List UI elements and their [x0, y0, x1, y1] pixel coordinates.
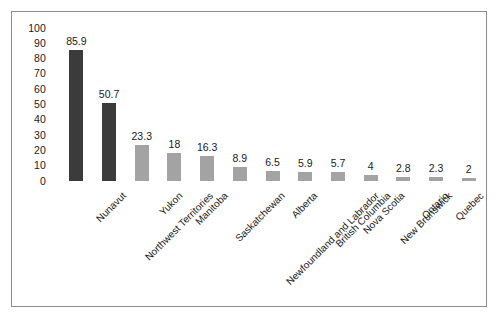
y-axis-tick-label: 50 — [16, 99, 46, 109]
bar[interactable] — [298, 172, 312, 181]
bar[interactable] — [331, 172, 345, 181]
bar[interactable] — [135, 145, 149, 181]
y-axis-tick-label: 40 — [16, 114, 46, 124]
bar[interactable] — [167, 153, 181, 181]
bar-value-label: 85.9 — [54, 36, 98, 47]
bar[interactable] — [396, 177, 410, 181]
bar[interactable] — [462, 178, 476, 181]
y-axis-tick-label: 80 — [16, 53, 46, 63]
x-axis-category-label: Quebec — [453, 190, 486, 223]
bar-value-label: 16.3 — [185, 142, 229, 153]
y-axis-tick-label: 10 — [16, 160, 46, 170]
y-axis-tick-label: 20 — [16, 145, 46, 155]
y-axis-tick-label: 70 — [16, 68, 46, 78]
bar[interactable] — [102, 103, 116, 181]
y-axis-tick-label: 0 — [16, 176, 46, 186]
bar-value-label: 2 — [447, 164, 491, 175]
y-axis-tick-label: 90 — [16, 38, 46, 48]
y-axis-tick-label: 30 — [16, 130, 46, 140]
x-axis-category-label: Yukon — [157, 190, 184, 217]
x-axis-category-label: Alberta — [289, 190, 319, 220]
bar[interactable] — [266, 171, 280, 181]
bar[interactable] — [233, 167, 247, 181]
bar[interactable] — [364, 175, 378, 181]
bar-value-label: 50.7 — [87, 89, 131, 100]
plot-area: 100908070605040302010085.9Nunavut50.7Nor… — [12, 12, 488, 308]
chart-frame: 100908070605040302010085.9Nunavut50.7Nor… — [11, 11, 487, 307]
y-axis-tick-label: 60 — [16, 84, 46, 94]
bar[interactable] — [200, 156, 214, 181]
x-axis-category-label: Saskatchewan — [233, 190, 287, 244]
bar[interactable] — [69, 50, 83, 181]
y-axis-tick-label: 100 — [16, 23, 46, 33]
x-axis-category-label: Nunavut — [94, 190, 128, 224]
bar[interactable] — [429, 177, 443, 181]
